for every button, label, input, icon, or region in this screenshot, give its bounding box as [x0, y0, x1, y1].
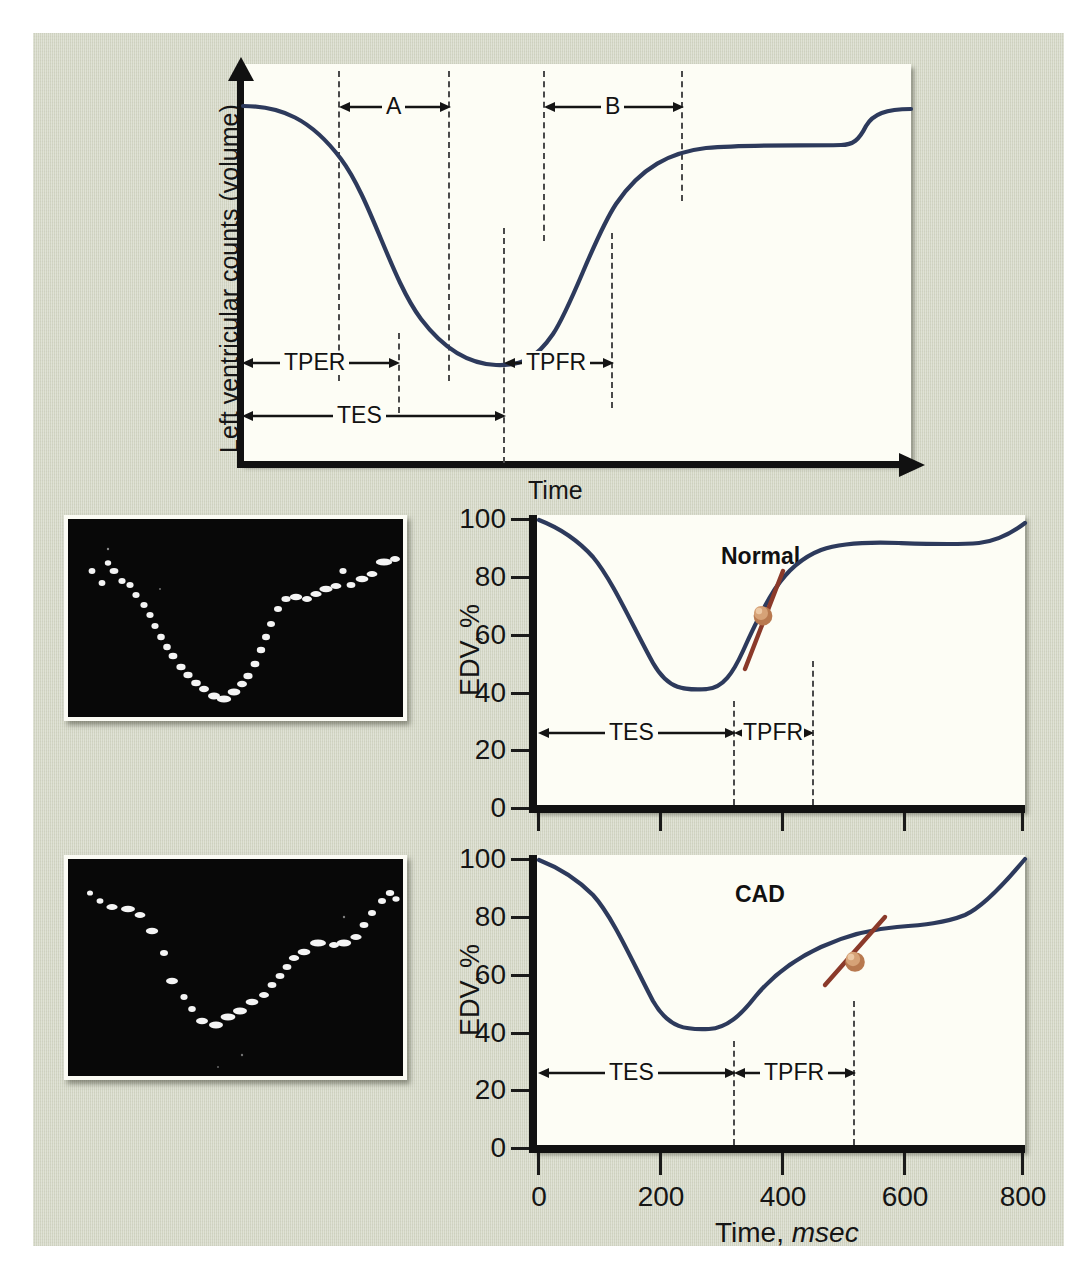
normal-ytick-0: [511, 807, 529, 810]
cad-ytick-label-60: 60: [450, 959, 506, 991]
cad-ytick-label-80: 80: [450, 901, 506, 933]
schematic-label-b: B: [601, 95, 624, 118]
cad-curve: [537, 855, 1027, 1151]
cad-ytick-label-100: 100: [450, 843, 506, 875]
cad-ytick-20: [511, 1089, 529, 1092]
normal-ytick-label-100: 100: [450, 503, 506, 535]
scintigram-normal: [64, 515, 407, 721]
cad-xtick-label-600: 600: [867, 1181, 943, 1213]
normal-y-axis: [529, 515, 537, 811]
figure-root: Left ventricular counts (volume) A: [0, 0, 1079, 1267]
normal-xtick-0: [537, 813, 540, 831]
figure-plate: Left ventricular counts (volume) A: [33, 33, 1064, 1246]
normal-curve: [537, 515, 1027, 811]
normal-xtick-800: [1021, 813, 1024, 831]
cad-xtick-800: [1021, 1153, 1024, 1175]
cad-y-axis: [529, 855, 537, 1151]
normal-xtick-600: [903, 813, 906, 831]
normal-ytick-20: [511, 749, 529, 752]
cad-xtick-0: [537, 1153, 540, 1175]
cad-ytick-60: [511, 974, 529, 977]
cad-ytick-80: [511, 916, 529, 919]
cad-label-tes: TES: [605, 1061, 658, 1084]
cad-xlabel-unit: msec: [792, 1217, 859, 1248]
cad-ytick-100: [511, 858, 529, 861]
normal-ytick-label-40: 40: [450, 677, 506, 709]
scintigram-cad: [64, 855, 407, 1080]
cad-xtick-label-200: 200: [623, 1181, 699, 1213]
cad-xlabel-main: Time,: [715, 1217, 784, 1248]
cad-xtick-label-400: 400: [745, 1181, 821, 1213]
normal-ytick-40: [511, 692, 529, 695]
schematic-xlabel: Time: [528, 476, 583, 505]
cad-xtick-400: [781, 1153, 784, 1175]
cad-xtick-label-0: 0: [511, 1181, 567, 1213]
normal-ytick-label-20: 20: [450, 734, 506, 766]
normal-label-tes: TES: [605, 721, 658, 744]
cad-xtick-label-800: 800: [985, 1181, 1061, 1213]
scintigram-cad-dots: [68, 859, 403, 1076]
cad-xlabel: Time, msec: [715, 1217, 859, 1249]
normal-xtick-400: [781, 813, 784, 831]
schematic-label-a: A: [382, 95, 405, 118]
scintigram-normal-dots: [68, 519, 403, 717]
cad-ytick-label-40: 40: [450, 1017, 506, 1049]
normal-ytick-80: [511, 576, 529, 579]
cad-xtick-200: [659, 1153, 662, 1175]
cad-ytick-40: [511, 1032, 529, 1035]
normal-ytick-label-60: 60: [450, 619, 506, 651]
schematic-label-tper: TPER: [280, 351, 349, 374]
cad-xtick-600: [903, 1153, 906, 1175]
schematic-label-tes: TES: [333, 404, 386, 427]
cad-label-tpfr: TPFR: [760, 1061, 828, 1084]
cad-ytick-0: [511, 1147, 529, 1150]
normal-ytick-label-80: 80: [450, 561, 506, 593]
schematic-label-tpfr: TPFR: [522, 351, 590, 374]
cad-ytick-label-20: 20: [450, 1074, 506, 1106]
normal-ytick-60: [511, 634, 529, 637]
normal-ytick-label-0: 0: [450, 792, 506, 824]
normal-label-tpfr: TPFR: [742, 721, 804, 744]
normal-ytick-100: [511, 518, 529, 521]
normal-xtick-200: [659, 813, 662, 831]
cad-ytick-label-0: 0: [450, 1132, 506, 1164]
